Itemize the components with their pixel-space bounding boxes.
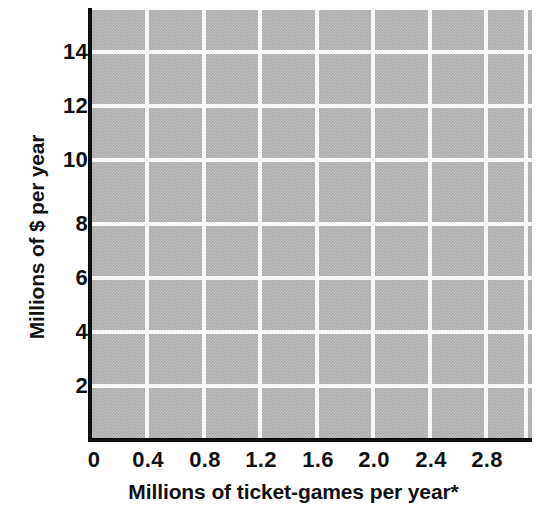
y-tick-label: 4	[2, 321, 88, 343]
chart-figure: Millions of $ per year 14 12 10 8 6 4 2	[0, 0, 551, 521]
y-tick-label: 10	[2, 149, 88, 171]
x-axis-line	[88, 438, 532, 442]
x-tick-label: 2.8	[452, 448, 522, 472]
x-axis-title: Millions of ticket-games per year*	[0, 480, 551, 504]
gridline-horizontal	[92, 384, 532, 388]
y-tick-label: 2	[2, 375, 88, 397]
plot-area	[92, 10, 532, 440]
gridline-horizontal	[92, 222, 532, 226]
gridline-horizontal	[92, 50, 532, 54]
gridline-horizontal	[92, 330, 532, 334]
gridline-horizontal	[92, 158, 532, 162]
y-tick-label: 8	[2, 213, 88, 235]
y-axis-line	[88, 8, 92, 442]
gridline-horizontal	[92, 104, 532, 108]
y-tick-label: 6	[2, 267, 88, 289]
gridline-horizontal	[92, 276, 532, 280]
y-axis-tick-labels: 14 12 10 8 6 4 2	[0, 0, 88, 460]
x-axis-tick-labels: 0 0.4 0.8 1.2 1.6 2.0 2.4 2.8	[0, 448, 551, 480]
y-tick-label: 12	[2, 95, 88, 117]
plot-frame	[92, 10, 532, 440]
y-tick-label: 14	[2, 41, 88, 63]
